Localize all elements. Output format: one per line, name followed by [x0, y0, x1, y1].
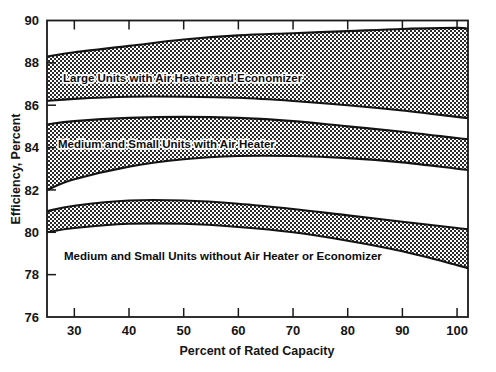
band-label-2: Medium and Small Units with Air HeaterMe…: [58, 138, 275, 150]
chart-figure: 7678808284868890 30405060708090100 Effic…: [0, 0, 496, 372]
x-tick-label: 50: [176, 323, 190, 338]
band-label-text: Large Units with Air Heater and Economiz…: [63, 72, 303, 84]
y-tick-label: 80: [25, 225, 39, 240]
x-tick-label: 100: [446, 323, 468, 338]
y-tick-label: 90: [25, 13, 39, 28]
band-label-3: Medium and Small Units without Air Heate…: [64, 250, 382, 262]
y-tick-label: 88: [25, 55, 39, 70]
band-label-text: Medium and Small Units without Air Heate…: [64, 250, 382, 262]
efficiency-vs-capacity-chart: 7678808284868890 30405060708090100 Effic…: [0, 0, 496, 372]
x-tick-label: 40: [122, 323, 136, 338]
band-label-1: Large Units with Air Heater and Economiz…: [63, 72, 303, 84]
y-tick-label: 86: [25, 98, 39, 113]
y-tick-label: 78: [25, 267, 39, 282]
x-tick-label: 70: [286, 323, 300, 338]
x-tick-label: 80: [340, 323, 354, 338]
band-label-text: Medium and Small Units with Air Heater: [58, 138, 275, 150]
x-tick-label: 60: [231, 323, 245, 338]
y-tick-label: 82: [25, 183, 39, 198]
y-axis-title: Efficiency, Percent: [9, 113, 23, 225]
x-axis-title: Percent of Rated Capacity: [180, 344, 335, 358]
x-tick-label: 30: [67, 323, 81, 338]
x-tick-label: 90: [395, 323, 409, 338]
y-tick-label: 76: [25, 310, 39, 325]
y-tick-label: 84: [25, 140, 40, 155]
